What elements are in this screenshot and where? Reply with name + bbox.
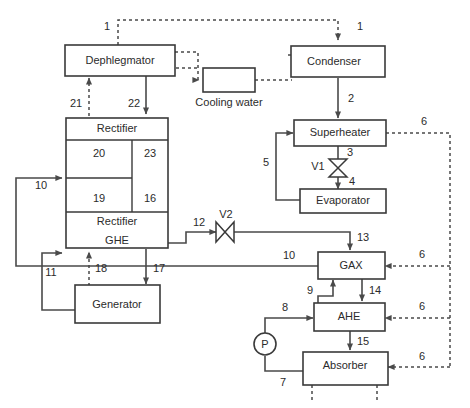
stream-label-5: 5	[263, 156, 269, 168]
stream-label-1-left: 1	[104, 20, 110, 32]
stream-label-9: 9	[307, 284, 313, 296]
valve-v2-label: V2	[219, 208, 232, 220]
stream-label-2: 2	[348, 92, 354, 104]
stream-label-14: 14	[369, 284, 381, 296]
pipe-stream-8	[265, 318, 313, 333]
stream-label-6-gax: 6	[419, 248, 425, 260]
process-flow-diagram: Dephlegmator Cooling water Condenser Rec…	[0, 0, 470, 408]
valve-v2-right[interactable]	[225, 222, 234, 242]
stream-label-15: 15	[357, 335, 369, 347]
stream-label-6-superheater: 6	[421, 115, 427, 127]
unit-gax-label: GAX	[339, 259, 363, 271]
unit-ghe-label: GHE	[105, 234, 129, 246]
stream-label-6-ahe: 6	[419, 300, 425, 312]
stream-label-12: 12	[193, 216, 205, 228]
tray-label-19: 19	[93, 192, 105, 204]
tray-label-20: 20	[93, 147, 105, 159]
unit-dephlegmator-label: Dephlegmator	[85, 54, 154, 66]
unit-rectifier-bottom-label: Rectifier	[97, 215, 138, 227]
pipe-dephlegmator-outlet	[175, 52, 199, 80]
stream-label-17: 17	[153, 262, 165, 274]
stream-label-21: 21	[70, 97, 82, 109]
pipe-stream-11	[42, 253, 75, 310]
valve-v2[interactable]	[216, 222, 225, 242]
stream-label-18: 18	[95, 262, 107, 274]
tray-label-16: 16	[144, 192, 156, 204]
pump-p-label: P	[261, 338, 268, 350]
stream-label-8: 8	[282, 301, 288, 313]
stream-label-10-left: 10	[35, 179, 47, 191]
stream-label-22: 22	[128, 97, 140, 109]
stream-label-4: 4	[349, 175, 355, 187]
unit-superheater-label: Superheater	[310, 126, 371, 138]
pipe-stream-12	[168, 232, 216, 243]
unit-rectifier-top-label: Rectifier	[97, 122, 138, 134]
stream-label-11: 11	[45, 266, 56, 278]
pipe-stream-7	[265, 356, 303, 371]
unit-generator-label: Generator	[92, 298, 142, 310]
stream-label-7: 7	[280, 376, 286, 388]
stream-label-10-gax: 10	[283, 249, 295, 261]
stream-label-6-absorber: 6	[419, 350, 425, 362]
unit-cooling-water-label: Cooling water	[195, 96, 263, 108]
stream-label-1-right: 1	[357, 20, 363, 32]
flowsheet-canvas: Dephlegmator Cooling water Condenser Rec…	[0, 0, 470, 408]
pipe-stream-13	[233, 232, 350, 250]
unit-cooling-water[interactable]	[203, 68, 255, 92]
stream-label-13: 13	[357, 231, 369, 243]
valve-v1[interactable]	[329, 159, 347, 168]
tray-label-23: 23	[144, 147, 156, 159]
unit-condenser-label: Condenser	[307, 55, 361, 67]
unit-absorber-label: Absorber	[323, 359, 368, 371]
stream-label-3: 3	[347, 146, 353, 158]
valve-v1-lower[interactable]	[329, 168, 347, 177]
unit-evaporator-label: Evaporator	[316, 194, 370, 206]
unit-column[interactable]	[66, 118, 168, 248]
valve-v1-label: V1	[311, 160, 324, 172]
unit-ahe-label: AHE	[338, 310, 361, 322]
